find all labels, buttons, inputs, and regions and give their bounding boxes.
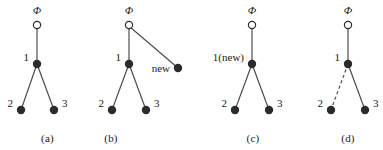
tree-figure: Φ 1 2 3 (a) Φ [0,0,383,150]
panel-c-graph: Φ 1(new) 2 3 [195,0,295,150]
node-3[interactable] [265,106,273,114]
panel-a-graph: Φ 1 2 3 [0,0,95,150]
panel-d-graph: Φ 1 2 3 [295,0,383,150]
edge-1-2 [21,64,37,110]
node-2[interactable] [231,106,239,114]
node-2[interactable] [17,106,25,114]
edge-1-3 [252,64,269,110]
node-2-label: 2 [8,97,14,109]
root-label: Φ [344,4,353,16]
node-1[interactable] [33,60,41,68]
labels-c: Φ 1(new) 2 3 [213,4,283,109]
panel-c: Φ 1(new) 2 3 (c) [195,0,295,150]
node-2-label: 2 [222,97,228,109]
panel-a: Φ 1 2 3 (a) [0,0,95,150]
labels-a: Φ 1 2 3 [8,4,69,109]
root-node-open-circle[interactable] [344,21,351,28]
root-node-open-circle[interactable] [248,21,255,28]
node-1[interactable] [344,60,352,68]
edge-1-3 [348,64,365,110]
edge-1-3 [129,64,146,110]
node-2[interactable] [327,106,335,114]
root-node-open-circle[interactable] [125,21,132,28]
panel-b-graph: Φ 1 2 3 new [95,0,195,150]
node-3-label: 3 [373,97,379,109]
node-3-label: 3 [154,97,160,109]
panel-d: Φ 1 2 3 (d) [295,0,383,150]
labels-b: Φ 1 2 3 new [99,4,171,109]
node-1-label: 1(new) [213,51,244,64]
node-1-label: 1 [335,51,341,63]
node-1[interactable] [125,60,133,68]
caption-d: (d) [304,132,383,144]
node-3-label: 3 [62,97,68,109]
node-3[interactable] [361,106,369,114]
node-3[interactable] [142,106,150,114]
node-3-label: 3 [277,97,283,109]
caption-b: (b) [61,132,161,144]
root-node-open-circle[interactable] [33,21,40,28]
node-1[interactable] [248,60,256,68]
caption-c: (c) [203,132,303,144]
node-new-label: new [152,62,170,74]
edge-1-3 [37,64,54,110]
node-3[interactable] [50,106,58,114]
edge-1-2-dashed [331,64,348,110]
nodes-b [108,21,182,114]
node-1-label: 1 [24,51,30,63]
root-label: Φ [125,4,134,16]
edge-1-2 [112,64,129,110]
node-2-label: 2 [99,97,105,109]
root-label: Φ [248,4,257,16]
node-1-label: 1 [116,51,122,63]
edge-1-2 [235,64,252,110]
panel-b: Φ 1 2 3 new (b) [95,0,195,150]
node-new[interactable] [174,64,182,72]
root-label: Φ [33,4,42,16]
node-2-label: 2 [318,97,324,109]
node-2[interactable] [108,106,116,114]
